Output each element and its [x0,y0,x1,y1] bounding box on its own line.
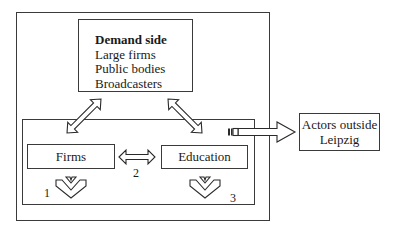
arrows-layer [0,0,393,227]
arrow-tail-stripes-icon [228,129,233,136]
double-arrow-firms-education-icon [119,150,155,164]
chevron-loop-education-icon [190,177,220,198]
arrow-to-actors-outside-icon [233,122,295,142]
double-arrow-demand-education-icon [163,94,207,138]
chevron-loop-firms-icon [56,177,86,198]
double-arrow-demand-firms-icon [62,94,106,138]
